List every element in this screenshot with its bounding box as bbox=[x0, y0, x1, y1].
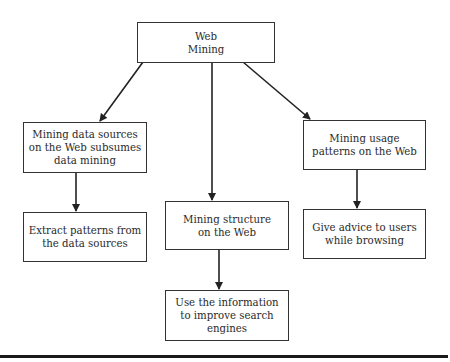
node-web-mining: Web Mining bbox=[137, 22, 275, 63]
node-extract-patterns: Extract patterns from the data sources bbox=[23, 212, 147, 262]
node-improve-search: Use the information to improve search en… bbox=[165, 290, 289, 341]
node-label: Mining data sources on the Web subsumes … bbox=[29, 128, 141, 167]
node-mining-usage: Mining usage patterns on the Web bbox=[303, 120, 426, 170]
node-label: Mining structure on the Web bbox=[183, 213, 271, 239]
node-mining-data-sources: Mining data sources on the Web subsumes … bbox=[23, 122, 147, 173]
node-label: Web Mining bbox=[188, 30, 225, 56]
node-mining-structure: Mining structure on the Web bbox=[165, 201, 289, 250]
node-label: Give advice to users while browsing bbox=[312, 221, 416, 247]
bottom-divider bbox=[0, 355, 448, 358]
node-give-advice: Give advice to users while browsing bbox=[303, 209, 426, 259]
node-label: Mining usage patterns on the Web bbox=[312, 132, 417, 158]
node-label: Use the information to improve search en… bbox=[175, 296, 278, 335]
node-label: Extract patterns from the data sources bbox=[29, 224, 141, 250]
edge-web-mining-to-data-sources bbox=[100, 62, 143, 121]
edge-web-mining-to-usage bbox=[243, 62, 310, 119]
